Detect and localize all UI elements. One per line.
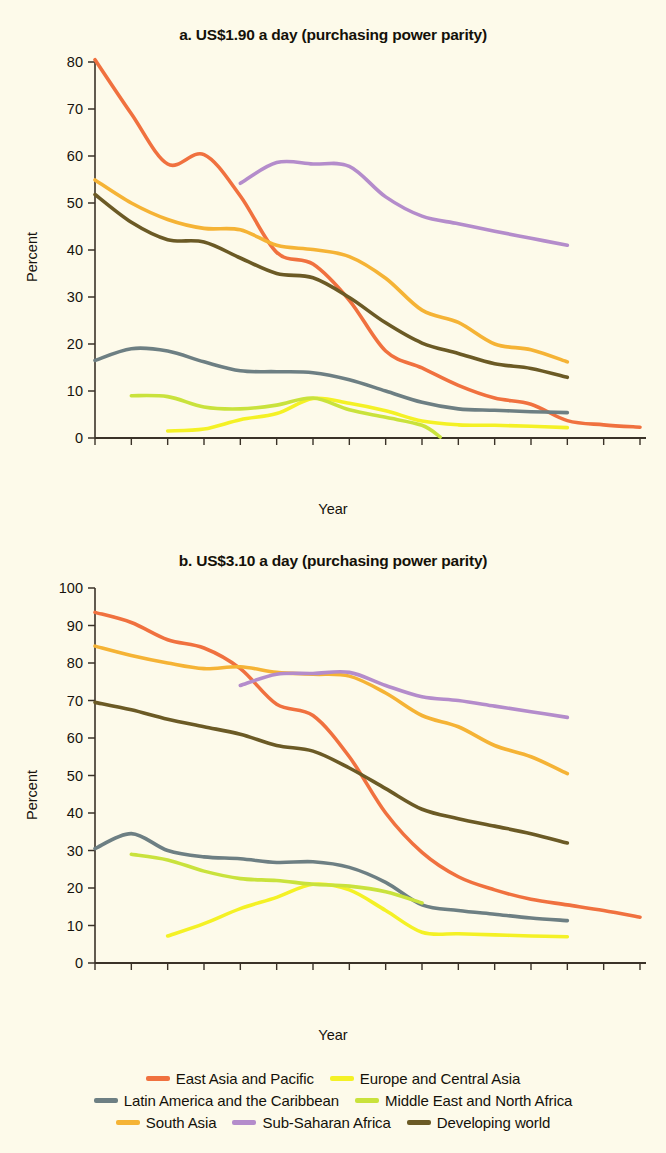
y-tick-label: 70	[67, 101, 83, 117]
x-tick-label: 2013	[544, 969, 575, 971]
x-tick-label: 1987	[144, 969, 175, 971]
y-tick-label: 70	[67, 693, 83, 709]
x-tick-label: 1987	[144, 444, 175, 446]
x-tick-label: 2005	[362, 444, 393, 446]
x-tick-label: 1999	[289, 444, 320, 446]
x-tick-label: 1999	[289, 969, 320, 971]
y-tick-label: 60	[67, 148, 83, 164]
x-tick-label: 1984	[108, 444, 139, 446]
legend-item[interactable]: Sub-Saharan Africa	[232, 1114, 390, 1131]
chart-panel-a: a. US$1.90 a day (purchasing power parit…	[0, 0, 666, 536]
y-tick-label: 10	[67, 918, 83, 934]
panel-a-svg: 0102030405060708019811984198719901993199…	[0, 46, 666, 446]
y-tick-label: 20	[67, 880, 83, 896]
x-tick-label: 1993	[217, 444, 248, 446]
x-tick-label: 2013	[544, 444, 575, 446]
legend-swatch-icon	[407, 1120, 431, 1125]
y-tick-label: 50	[67, 195, 83, 211]
legend-label: East Asia and Pacific	[176, 1070, 314, 1087]
x-tick-label: 2005	[362, 969, 393, 971]
panel-b-y-axis-label: Percent	[24, 770, 40, 820]
y-tick-label: 30	[67, 289, 83, 305]
y-tick-label: 80	[67, 655, 83, 671]
legend-row: East Asia and PacificEurope and Central …	[146, 1070, 520, 1087]
legend-item[interactable]: East Asia and Pacific	[146, 1070, 314, 1087]
legend-row: Latin America and the CaribbeanMiddle Ea…	[94, 1092, 573, 1109]
x-tick-label: 2010	[435, 969, 466, 971]
legend-label: Sub-Saharan Africa	[262, 1114, 390, 1131]
series-line	[95, 612, 640, 917]
panel-a-y-axis-label: Percent	[24, 232, 40, 282]
x-tick-label: 2008	[398, 444, 429, 446]
panel-a-title: a. US$1.90 a day (purchasing power parit…	[0, 26, 666, 44]
legend-item[interactable]: Developing world	[407, 1114, 550, 1131]
panel-b-x-axis-label: Year	[0, 1027, 666, 1043]
legend-swatch-icon	[146, 1076, 170, 1081]
y-tick-label: 60	[67, 730, 83, 746]
x-tick-label: 1996	[253, 444, 284, 446]
x-tick-label: 2014	[580, 444, 611, 446]
panel-a-x-axis-label: Year	[0, 501, 666, 517]
series-line	[95, 702, 567, 843]
y-tick-label: 40	[67, 242, 83, 258]
x-tick-label: 1993	[217, 969, 248, 971]
legend-swatch-icon	[116, 1120, 140, 1125]
x-tick-label: 2012	[507, 444, 538, 446]
legend-item[interactable]: Europe and Central Asia	[330, 1070, 520, 1087]
legend-swatch-icon	[94, 1098, 118, 1103]
legend-label: South Asia	[146, 1114, 217, 1131]
x-tick-label: 2002	[326, 444, 357, 446]
series-line	[95, 646, 567, 774]
y-tick-label: 90	[67, 618, 83, 634]
legend-label: Latin America and the Caribbean	[124, 1092, 339, 1109]
chart-panel-b: b. US$3.10 a day (purchasing power parit…	[0, 536, 666, 1060]
figure-page: a. US$1.90 a day (purchasing power parit…	[0, 0, 666, 1153]
x-tick-label: 2008	[398, 969, 429, 971]
y-tick-label: 0	[75, 955, 83, 971]
x-tick-label: 2012	[507, 969, 538, 971]
x-tick-label: 2015	[616, 969, 647, 971]
series-line	[240, 161, 567, 245]
y-tick-label: 50	[67, 768, 83, 784]
legend-label: Europe and Central Asia	[360, 1070, 520, 1087]
x-tick-label: 1996	[253, 969, 284, 971]
x-tick-label: 2015	[616, 444, 647, 446]
legend-swatch-icon	[355, 1098, 379, 1103]
y-tick-label: 20	[67, 336, 83, 352]
x-tick-label: 1984	[108, 969, 139, 971]
legend-swatch-icon	[330, 1076, 354, 1081]
y-tick-label: 0	[75, 430, 83, 446]
x-tick-label: 1990	[180, 444, 211, 446]
x-tick-label: 2014	[580, 969, 611, 971]
legend-label: Developing world	[437, 1114, 550, 1131]
y-tick-label: 10	[67, 383, 83, 399]
legend-item[interactable]: Middle East and North Africa	[355, 1092, 572, 1109]
panel-b-svg: 0102030405060708090100198119841987199019…	[0, 576, 666, 971]
legend-row: South AsiaSub-Saharan AfricaDeveloping w…	[116, 1114, 550, 1131]
panel-a-plot-area: 0102030405060708019811984198719901993199…	[0, 46, 666, 446]
legend-label: Middle East and North Africa	[385, 1092, 572, 1109]
panel-b-title: b. US$3.10 a day (purchasing power parit…	[0, 552, 666, 570]
legend-swatch-icon	[232, 1120, 256, 1125]
y-tick-label: 40	[67, 805, 83, 821]
legend-item[interactable]: South Asia	[116, 1114, 217, 1131]
y-tick-label: 100	[59, 580, 83, 596]
chart-legend: East Asia and PacificEurope and Central …	[0, 1070, 666, 1131]
x-tick-label: 2010	[435, 444, 466, 446]
x-tick-label: 2011	[472, 969, 502, 971]
legend-item[interactable]: Latin America and the Caribbean	[94, 1092, 339, 1109]
y-tick-label: 30	[67, 843, 83, 859]
series-line	[95, 834, 567, 921]
series-line	[95, 180, 567, 362]
y-tick-label: 80	[67, 54, 83, 70]
x-tick-label: 2011	[472, 444, 502, 446]
x-tick-label: 2002	[326, 969, 357, 971]
x-tick-label: 1990	[180, 969, 211, 971]
panel-b-plot-area: 0102030405060708090100198119841987199019…	[0, 576, 666, 971]
